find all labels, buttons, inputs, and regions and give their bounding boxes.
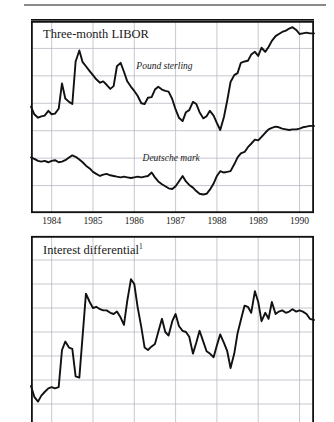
- plot-title: Interest differential1: [43, 242, 143, 258]
- plot-area-bottom: [31, 236, 314, 422]
- x-axis-tick-label: 1984: [32, 216, 72, 226]
- plot-title-text: Three-month LIBOR: [43, 27, 149, 41]
- chart-interest-differential: 345678910Interest differential1: [0, 230, 334, 422]
- header-divider-upper: [24, 4, 326, 6]
- x-axis-tick-label: 1987: [156, 216, 196, 226]
- plot-title-footnote-marker: 1: [139, 242, 143, 251]
- plot-area-top: [31, 21, 314, 213]
- series-line: [31, 279, 314, 401]
- series-line: [31, 27, 314, 130]
- series-annotation-label: Deutsche mark: [143, 153, 200, 163]
- plot-title: Three-month LIBOR: [43, 27, 149, 42]
- x-axis-tick-label: 1990: [280, 216, 320, 226]
- x-axis-tick-label: 1989: [238, 216, 278, 226]
- x-axis-tick-label: 1988: [197, 216, 237, 226]
- series-annotation-label: Pound sterling: [136, 61, 192, 71]
- x-axis-tick-label: 1985: [73, 216, 113, 226]
- x-axis-tick-label: 1986: [114, 216, 154, 226]
- chart-three-month-libor: 2468101214161984198519861987198819891990…: [0, 14, 334, 226]
- plot-title-text: Interest differential: [43, 243, 139, 257]
